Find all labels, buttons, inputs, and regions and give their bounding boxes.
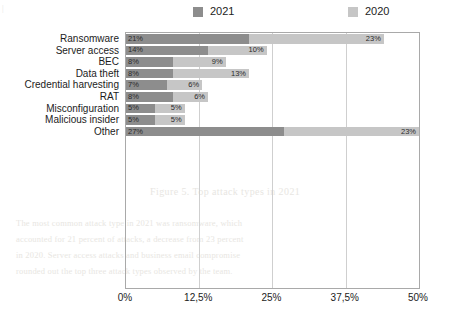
bar-segment-2021[interactable]: 27%	[126, 127, 284, 137]
legend-label-2021: 2021	[210, 6, 234, 17]
bar-segment-2021[interactable]: 7%	[126, 80, 167, 90]
value-axis-labels: 0%12,5%25%37,5%50%	[0, 292, 452, 308]
bar-segment-2021[interactable]: 8%	[126, 69, 173, 79]
bar-value-label: 5%	[128, 116, 139, 124]
bar-track: 8%9%	[126, 57, 226, 67]
bar-value-label: 5%	[171, 104, 182, 112]
bar-track: 14%10%	[126, 46, 267, 56]
category-label: Other	[0, 126, 122, 138]
bar-row: 21%23%	[126, 33, 419, 45]
bar-segment-2020[interactable]: 10%	[208, 46, 267, 56]
bar-row: 8%6%	[126, 91, 419, 103]
bar-row: 8%13%	[126, 68, 419, 80]
bar-track: 7%6%	[126, 80, 202, 90]
category-label: Data theft	[0, 68, 122, 80]
x-axis-tick-label: 37,5%	[331, 292, 359, 303]
category-label: Ransomware	[0, 33, 122, 45]
bar-value-label: 9%	[212, 58, 223, 66]
bar-value-label: 13%	[231, 70, 246, 78]
bar-segment-2020[interactable]: 5%	[155, 104, 184, 114]
bar-segment-2020[interactable]: 6%	[167, 80, 202, 90]
bar-segment-2021[interactable]: 5%	[126, 115, 155, 125]
legend-item-2021[interactable]: 2021	[193, 6, 234, 17]
category-label: Server access	[0, 45, 122, 57]
bar-value-label: 6%	[188, 81, 199, 89]
bar-segment-2020[interactable]: 6%	[173, 92, 208, 102]
bar-value-label: 6%	[194, 93, 205, 101]
bar-value-label: 8%	[128, 93, 139, 101]
bar-segment-2021[interactable]: 21%	[126, 34, 249, 44]
bar-value-label: 21%	[128, 35, 143, 43]
x-axis-tick-label: 25%	[261, 292, 281, 303]
bar-segment-2020[interactable]: 13%	[173, 69, 249, 79]
bar-segment-2021[interactable]: 8%	[126, 57, 173, 67]
bar-row: 5%5%	[126, 103, 419, 115]
bar-track: 8%13%	[126, 69, 249, 79]
category-label: Misconfiguration	[0, 103, 122, 115]
category-label: Malicious insider	[0, 114, 122, 126]
bar-segment-2021[interactable]: 8%	[126, 92, 173, 102]
category-label: Credential harvesting	[0, 79, 122, 91]
bar-segment-2020[interactable]: 5%	[155, 115, 184, 125]
bar-value-label: 10%	[249, 46, 264, 54]
category-label: RAT	[0, 91, 122, 103]
bar-segment-2020[interactable]: 23%	[249, 34, 384, 44]
legend-item-2020[interactable]: 2020	[348, 6, 389, 17]
bar-track: 21%23%	[126, 34, 384, 44]
bar-value-label: 8%	[128, 58, 139, 66]
bar-track: 27%23%	[126, 127, 419, 137]
legend-label-2020: 2020	[365, 6, 389, 17]
bar-segment-2020[interactable]: 9%	[173, 57, 226, 67]
x-axis-tick-label: 0%	[118, 292, 132, 303]
x-axis-tick-label: 12,5%	[184, 292, 212, 303]
x-axis-tick-label: 50%	[408, 292, 428, 303]
legend-swatch-2020	[348, 7, 358, 17]
bar-row: 14%10%	[126, 45, 419, 57]
bar-value-label: 5%	[171, 116, 182, 124]
bar-segment-2021[interactable]: 5%	[126, 104, 155, 114]
bar-row: 27%23%	[126, 126, 419, 138]
bar-row: 8%9%	[126, 56, 419, 68]
bar-row: 7%6%	[126, 79, 419, 91]
bar-value-label: 8%	[128, 70, 139, 78]
category-axis-labels: RansomwareServer accessBECData theftCred…	[0, 33, 122, 137]
bar-value-label: 14%	[128, 46, 143, 54]
bar-value-label: 23%	[401, 128, 416, 136]
legend-swatch-2021	[193, 7, 203, 17]
bar-series-container: 21%23%14%10%8%9%8%13%7%6%8%6%5%5%5%5%27%…	[126, 33, 419, 137]
bar-segment-2021[interactable]: 14%	[126, 46, 208, 56]
bar-value-label: 23%	[366, 35, 381, 43]
bar-value-label: 27%	[128, 128, 143, 136]
bar-track: 8%6%	[126, 92, 208, 102]
bar-row: 5%5%	[126, 114, 419, 126]
category-label: BEC	[0, 56, 122, 68]
bar-track: 5%5%	[126, 104, 185, 114]
bar-value-label: 7%	[128, 81, 139, 89]
chart-legend: 2021 2020	[0, 6, 452, 26]
bar-value-label: 5%	[128, 104, 139, 112]
bar-track: 5%5%	[126, 115, 185, 125]
bar-segment-2020[interactable]: 23%	[284, 127, 419, 137]
